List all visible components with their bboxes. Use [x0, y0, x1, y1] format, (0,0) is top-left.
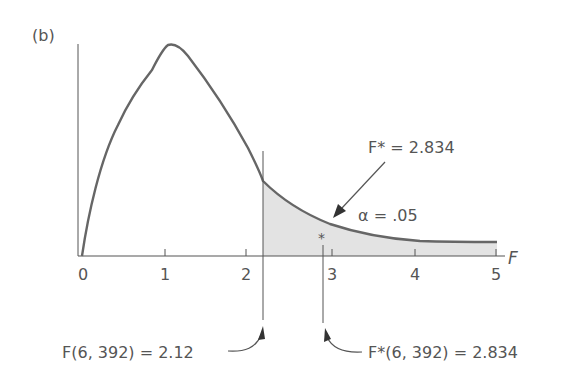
- critical-arrow-head: [258, 326, 265, 340]
- panel-label: (b): [32, 26, 55, 45]
- svg-text:0: 0: [78, 265, 88, 284]
- observed-arrow: [327, 337, 362, 352]
- fstar-arrow-shaft: [342, 162, 385, 208]
- critical-arrow: [228, 335, 261, 351]
- alpha-label: α = .05: [358, 206, 418, 225]
- critical-value-label: F(6, 392) = 2.12: [62, 343, 194, 362]
- svg-text:4: 4: [410, 265, 420, 284]
- observed-value-label: F*(6, 392) = 2.834: [368, 343, 518, 362]
- x-axis-label: F: [508, 248, 518, 268]
- f-distribution-chart: (b) * 0 1 2 3 4 5 F F* = 2.834 α = .05 F…: [0, 0, 561, 377]
- svg-text:1: 1: [160, 265, 170, 284]
- fstar-top-label: F* = 2.834: [368, 138, 455, 157]
- star-marker: *: [318, 230, 325, 246]
- svg-text:3: 3: [327, 265, 337, 284]
- svg-text:5: 5: [491, 265, 501, 284]
- svg-text:2: 2: [241, 265, 251, 284]
- x-tick-labels: 0 1 2 3 4 5: [78, 265, 501, 284]
- observed-arrow-head: [324, 328, 331, 342]
